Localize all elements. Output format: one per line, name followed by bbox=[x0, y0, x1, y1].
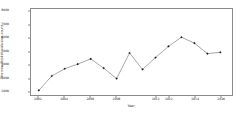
data-point bbox=[207, 53, 209, 55]
data-point bbox=[90, 58, 92, 60]
y-tick-label: 8000 bbox=[1, 10, 9, 13]
data-point bbox=[142, 69, 144, 71]
data-point bbox=[129, 52, 131, 54]
x-tick-mark bbox=[37, 96, 38, 98]
x-tick-label: 2012 bbox=[165, 98, 173, 101]
y-tick-label: 3000 bbox=[1, 77, 9, 80]
data-point bbox=[38, 90, 40, 92]
data-point bbox=[168, 46, 170, 48]
y-tick-mark bbox=[28, 78, 30, 79]
x-tick-label: 2008 bbox=[113, 98, 121, 101]
x-tick-mark bbox=[64, 96, 65, 98]
x-tick-label: 2002 bbox=[34, 98, 42, 101]
y-tick-mark bbox=[28, 51, 30, 52]
y-tick-label: 7000 bbox=[1, 23, 9, 26]
data-point bbox=[77, 63, 79, 65]
line-series bbox=[31, 9, 232, 95]
x-tick-label: 2014 bbox=[191, 98, 199, 101]
x-tick-mark bbox=[90, 96, 91, 98]
y-tick-mark bbox=[28, 91, 30, 92]
y-tick-mark bbox=[28, 24, 30, 25]
y-tick-label: 6000 bbox=[1, 37, 9, 40]
series-polyline bbox=[39, 37, 221, 90]
x-tick-label: 2016 bbox=[217, 98, 225, 101]
x-tick-mark bbox=[195, 96, 196, 98]
y-tick-mark bbox=[28, 11, 30, 12]
data-point bbox=[51, 75, 53, 77]
data-point bbox=[116, 78, 118, 80]
plot-area bbox=[30, 8, 233, 96]
data-point bbox=[194, 42, 196, 44]
series-markers bbox=[38, 36, 221, 91]
chart-figure: The new Publish collusion count Year 200… bbox=[0, 0, 242, 116]
x-tick-mark bbox=[155, 96, 156, 98]
data-point bbox=[64, 68, 66, 70]
y-tick-mark bbox=[28, 38, 30, 39]
y-tick-label: 5000 bbox=[1, 50, 9, 53]
x-tick-mark bbox=[116, 96, 117, 98]
x-tick-mark bbox=[168, 96, 169, 98]
y-tick-label: 2000 bbox=[1, 90, 9, 93]
y-tick-mark bbox=[28, 65, 30, 66]
data-point bbox=[181, 36, 183, 38]
data-point bbox=[155, 57, 157, 59]
x-tick-label: 2004 bbox=[60, 98, 68, 101]
data-point bbox=[219, 52, 221, 54]
x-tick-label: 2006 bbox=[86, 98, 94, 101]
x-axis-title: Year bbox=[127, 105, 134, 108]
y-tick-label: 4000 bbox=[1, 64, 9, 67]
x-tick-mark bbox=[221, 96, 222, 98]
x-tick-label: 2011 bbox=[152, 98, 160, 101]
data-point bbox=[103, 67, 105, 69]
